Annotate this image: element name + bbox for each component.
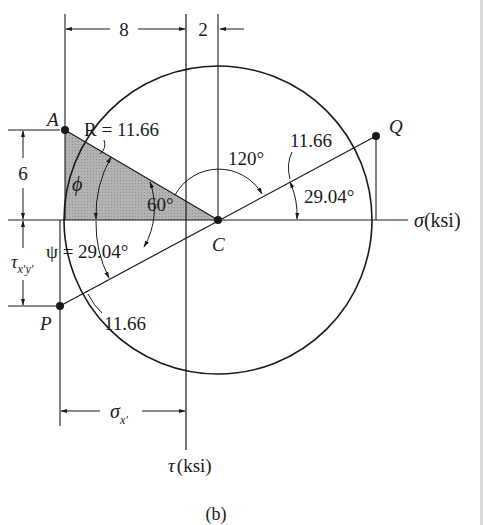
radius-leader-q xyxy=(288,152,292,179)
label-phi: ϕ xyxy=(72,173,82,196)
label-radius-p: 11.66 xyxy=(104,313,146,334)
label-radius-q: 11.66 xyxy=(290,130,332,151)
label-radius: R = 11.66 xyxy=(84,119,159,140)
label-angle-q: 29.04° xyxy=(304,186,354,207)
figure-caption: (b) xyxy=(206,504,227,525)
mohr-circle-figure: 8 2 6 τx′y′ σx′ xyxy=(0,0,483,525)
angle-q-arc xyxy=(290,182,297,219)
dim-8-label: 8 xyxy=(119,19,129,40)
mohr-circle-svg: 8 2 6 τx′y′ σx′ xyxy=(0,0,483,525)
label-angle-60: 60° xyxy=(147,194,174,215)
point-a xyxy=(61,126,69,134)
label-psi: ψ = 29.04° xyxy=(46,241,128,262)
label-q: Q xyxy=(389,116,403,137)
dim-sigma-x-label: σx′ xyxy=(110,400,128,427)
label-c: C xyxy=(212,234,225,255)
label-p: P xyxy=(39,313,52,334)
sigma-axis-label: σ(ksi) xyxy=(414,209,461,232)
dim-tau-xy-label: τx′y′ xyxy=(11,252,34,276)
dim-2-label: 2 xyxy=(198,19,208,40)
dim-6-label: 6 xyxy=(18,163,28,184)
radius-leader-p xyxy=(88,294,102,313)
label-angle-120: 120° xyxy=(228,148,264,169)
tau-axis-label: τ(ksi) xyxy=(168,455,212,477)
label-a: A xyxy=(45,109,59,130)
point-p xyxy=(56,302,64,310)
point-q xyxy=(372,132,380,140)
point-c xyxy=(214,216,222,224)
